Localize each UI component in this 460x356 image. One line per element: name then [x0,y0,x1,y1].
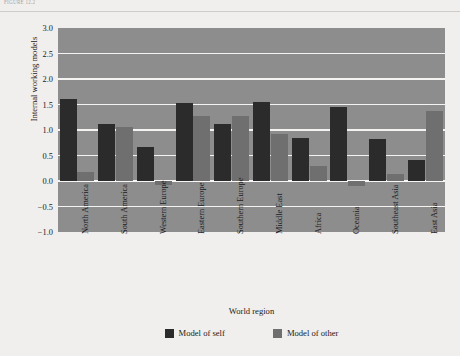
bar-model-of-self [292,138,309,181]
figure-container: FIGURE 12.2 3.02.52.01.51.00.50.0−0.5−1.… [0,0,460,356]
bar-model-of-self [330,107,347,181]
bar-group [368,28,407,232]
bar-group [329,28,368,232]
bar-groups [58,28,445,232]
x-axis-tick-label: Middle East [275,234,316,243]
y-axis-tick-label: −0.5 [38,202,53,211]
bar-model-of-other [271,134,288,181]
self-swatch [165,329,174,338]
bar-group [290,28,329,232]
bar-model-of-self [369,139,386,181]
header-divider [0,11,460,12]
x-axis-tick-text: Eastern Europe [197,183,206,234]
bar-group [135,28,174,232]
x-axis-tick-text: Africa [314,213,323,234]
bar-model-of-other [348,181,365,186]
bar-model-of-other [387,174,404,181]
bar-model-of-self [137,147,154,181]
x-axis-label: World region [58,306,445,316]
chart-legend: Model of selfModel of other [58,328,445,338]
bar-model-of-other [77,172,94,181]
bar-group [174,28,213,232]
y-axis-label: Internal working models [29,0,39,159]
legend-item: Model of other [273,328,339,338]
other-swatch [273,329,282,338]
x-axis-tick-text: Southern Europe [236,177,245,234]
bar-group [406,28,445,232]
y-axis-tick-label: 2.5 [43,49,53,58]
bar-model-of-self [408,160,425,181]
bar-model-of-self [60,99,77,181]
legend-label: Model of other [287,328,339,338]
x-axis-tick-text: Oceania [352,207,361,234]
bar-group [58,28,97,232]
x-axis-tick-label: Africa [314,234,335,243]
bar-model-of-other [116,127,133,181]
bar-group [213,28,252,232]
y-axis-tick-label: 1.5 [43,100,53,109]
x-axis-tick-text: East Asia [430,203,439,234]
legend-item: Model of self [165,328,225,338]
bar-model-of-self [98,124,115,181]
bar-model-of-other [232,116,249,181]
plot-area [58,28,445,232]
bar-model-of-other [426,111,443,181]
y-axis-tick-label: 2.0 [43,75,53,84]
x-axis-tick-text: Middle East [275,193,284,234]
y-axis-ticks: 3.02.52.01.51.00.50.0−0.5−1.0 [0,28,53,232]
bar-model-of-self [253,102,270,181]
x-axis-tick-text: North America [81,184,90,234]
y-axis-tick-label: 1.0 [43,126,53,135]
bar-model-of-other [310,166,327,181]
x-axis-tick-text: Western Europe [159,180,168,234]
x-axis-tick-text: South America [120,184,129,234]
bar-group [252,28,291,232]
y-axis-tick-label: 3.0 [43,24,53,33]
x-axis-ticks: North AmericaSouth AmericaWestern Europe… [58,234,445,308]
legend-label: Model of self [179,328,225,338]
bar-model-of-self [176,103,193,181]
y-axis-tick-label: −1.0 [38,228,53,237]
x-axis-tick-label: East Asia [430,234,460,243]
x-axis-tick-label: Oceania [352,234,379,243]
y-axis-tick-label: 0.5 [43,151,53,160]
bar-group [97,28,136,232]
bar-model-of-other [193,116,210,181]
x-axis-tick-text: Southeast Asia [391,184,400,234]
y-axis-tick-label: 0.0 [43,177,53,186]
bar-model-of-self [214,124,231,181]
